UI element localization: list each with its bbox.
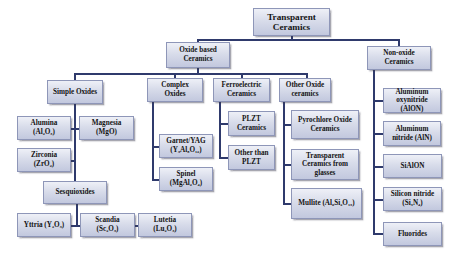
connector	[76, 204, 78, 226]
node-silicon-nitride: Silicon nitride (Si₃N₄)	[383, 187, 442, 211]
connector	[373, 70, 375, 235]
node-label: Garnet/YAG (Y₃Al₅O₁₂)	[166, 137, 205, 154]
node-label: Non-oxide Ceramics	[383, 49, 415, 66]
node-label: Spinel (MgAl₂O₄)	[170, 170, 202, 187]
connector	[219, 102, 221, 159]
connector	[283, 102, 285, 205]
node-simple-oxides: Simple Oxides	[47, 80, 103, 104]
node-sialon: SiAlON	[383, 154, 442, 178]
node-zirconia: Zirconia (ZrO₂)	[17, 148, 71, 172]
node-aluminum-oxynitride: Aluminum oxynitride (AlON)	[383, 88, 441, 113]
diagram-canvas: Transparent Ceramics Oxide based Ceramic…	[0, 0, 456, 256]
node-yttria: Yttria (Y₂O₃)	[17, 213, 71, 237]
node-alumina: Alumina (Al₂O₃)	[17, 116, 71, 140]
connector	[152, 102, 154, 180]
node-scandia: Scandia (Sc₂O₃)	[80, 213, 135, 237]
node-label: Oxide based Ceramics	[179, 46, 217, 63]
node-label: Lutetia (Lu₂O₃)	[153, 216, 176, 233]
node-label: Other than PLZT	[234, 149, 268, 166]
node-label: Sesquioxides	[55, 188, 94, 197]
node-pyrochlore-oxide-ceramics: Pyrochlore Oxide Ceramics	[291, 110, 359, 139]
node-label: Aluminum oxynitride (AlON)	[395, 88, 428, 114]
node-label: Zirconia (ZrO₂)	[31, 151, 57, 168]
node-spinel: Spinel (MgAl₂O₄)	[159, 167, 213, 191]
node-other-than-plzt: Other than PLZT	[228, 145, 275, 170]
connector	[197, 39, 400, 41]
node-label: Alumina (Al₂O₃)	[31, 119, 58, 136]
node-non-oxide-ceramics: Non-oxide Ceramics	[367, 46, 431, 70]
node-lutetia: Lutetia (Lu₂O₃)	[138, 213, 192, 237]
node-other-oxide-ceramics: Other Oxide ceramics	[279, 78, 331, 102]
node-label: Fluorides	[398, 230, 427, 239]
node-plzt-ceramics: PLZT Ceramics	[228, 111, 275, 136]
node-mullite: Mullite (Al₆Si₂O₁₃)	[291, 188, 362, 219]
node-label: PLZT Ceramics	[237, 115, 266, 132]
node-transparent-ceramics-from-glasses: Transparent Ceramics from glasses	[291, 149, 359, 180]
node-oxide-based-ceramics: Oxide based Ceramics	[166, 42, 230, 68]
node-magnesia: Magnesia (MgO)	[79, 116, 134, 140]
node-label: Silicon nitride (Si₃N₄)	[391, 190, 434, 207]
node-fluorides: Fluorides	[383, 222, 442, 246]
node-label: Yttria (Y₂O₃)	[24, 221, 64, 230]
node-transparent-ceramics: Transparent Ceramics	[253, 8, 330, 36]
connector	[74, 104, 76, 182]
node-label: Pyrochlore Oxide Ceramics	[298, 116, 352, 133]
node-ferroelectric-ceramics: Ferroelectric Ceramics	[213, 78, 270, 102]
node-label: Complex Oxides	[161, 81, 189, 98]
node-label: Transparent Ceramics	[267, 12, 316, 33]
node-sesquioxides: Sesquioxides	[43, 181, 107, 204]
node-label: Mullite (Al₆Si₂O₁₃)	[298, 199, 354, 208]
node-label: Aluminum nitride (AlN)	[392, 125, 432, 142]
node-label: Magnesia (MgO)	[92, 119, 122, 136]
connector	[74, 73, 308, 75]
node-label: SiAlON	[401, 162, 425, 171]
node-garnet-yag: Garnet/YAG (Y₃Al₅O₁₂)	[159, 134, 213, 158]
node-label: Ferroelectric Ceramics	[222, 81, 262, 98]
node-label: Scandia (Sc₂O₃)	[95, 216, 119, 233]
node-aluminum-nitride: Aluminum nitride (AlN)	[383, 121, 441, 146]
node-label: Other Oxide ceramics	[286, 81, 324, 98]
node-label: Transparent Ceramics from glasses	[302, 152, 348, 178]
node-complex-oxides: Complex Oxides	[147, 78, 203, 102]
node-label: Simple Oxides	[53, 88, 97, 97]
